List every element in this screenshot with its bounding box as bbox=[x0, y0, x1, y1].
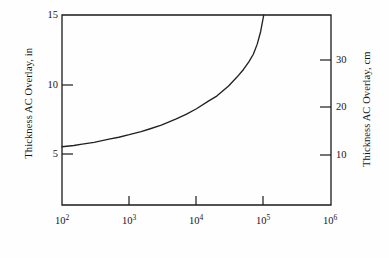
tick-mantissa-1e2: 10 bbox=[55, 215, 66, 226]
tick-label-right-30: 30 bbox=[336, 55, 347, 66]
tick-label-right-20: 20 bbox=[336, 102, 347, 113]
tick-mantissa-1e3: 10 bbox=[122, 215, 133, 226]
tick-label-x-1e3: 103 bbox=[122, 216, 136, 227]
tick-exponent-1e6: 6 bbox=[333, 213, 337, 222]
data-series-line bbox=[62, 15, 264, 147]
plot-border bbox=[62, 15, 331, 205]
axis-frame bbox=[62, 15, 331, 205]
tick-label-x-1e2: 102 bbox=[55, 216, 69, 227]
tick-exponent-1e2: 2 bbox=[65, 213, 69, 222]
tick-exponent-1e5: 5 bbox=[266, 213, 270, 222]
y-axis-right-title: Thickness AC Overlay, cm bbox=[362, 29, 373, 189]
chart-figure: 5 10 15 10 20 30 102 103 104 105 106 Thi… bbox=[0, 0, 389, 258]
tick-exponent-1e3: 3 bbox=[132, 213, 136, 222]
tick-mantissa-1e5: 10 bbox=[256, 215, 267, 226]
tick-exponent-1e4: 4 bbox=[199, 213, 203, 222]
tick-label-left-15: 15 bbox=[48, 10, 59, 21]
tick-mantissa-1e4: 10 bbox=[189, 215, 200, 226]
tick-mantissa-1e6: 10 bbox=[323, 215, 334, 226]
y-axis-left-title: Thickness AC Overlay, in bbox=[24, 23, 35, 183]
tick-label-x-1e6: 106 bbox=[323, 216, 337, 227]
tick-label-x-1e4: 104 bbox=[189, 216, 203, 227]
tick-label-x-1e5: 105 bbox=[256, 216, 270, 227]
tick-label-left-10: 10 bbox=[48, 80, 59, 91]
tick-label-right-10: 10 bbox=[336, 150, 347, 161]
tick-label-left-5: 5 bbox=[53, 149, 58, 160]
bottom-axis-ticks bbox=[129, 196, 263, 205]
right-axis-ticks bbox=[320, 60, 331, 155]
left-axis-ticks bbox=[62, 85, 73, 154]
